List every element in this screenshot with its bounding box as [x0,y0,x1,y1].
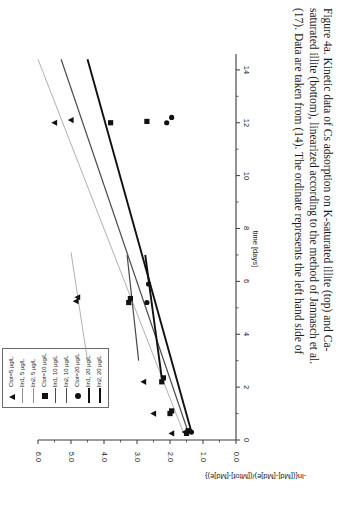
x-tick-label: 12 [242,119,251,127]
caption-line: (17). Data are taken from (14). The ordi… [291,8,306,522]
legend-item-label: Ctot=5 µg/L [6,357,17,387]
x-tick-label: 14 [242,66,251,74]
y-tick-label: 5.0 [67,446,76,468]
data-point-triangle [140,379,146,385]
caption-line: saturated illite (bottom), linearized ac… [306,8,321,522]
x-tick-label: 2 [242,385,251,389]
y-tick-label: 0.0 [232,446,241,468]
legend-item-label: lin1, 5 µg/L [17,359,28,387]
x-tick-label: 8 [242,226,251,230]
data-point-triangle [68,117,74,123]
y-tick-label: 4.0 [100,446,109,468]
y-tick-label: 2.0 [166,446,175,468]
fit-line [71,252,88,360]
data-point-circle [146,281,151,286]
y-tick-label: 1.0 [199,446,208,468]
data-point-circle [144,300,149,305]
data-point-triangle [73,298,79,304]
data-point-square [108,120,113,125]
rotated-figure-stage: Ctot=5 µg/Llin1, 5 µg/Llin2, 5 µg/LCtot=… [0,0,349,528]
legend-key-triangle-icon [9,394,15,400]
x-tick-label: 0 [242,438,251,442]
plot-svg [30,48,262,468]
x-tick-label: 4 [242,332,251,336]
legend-key-slot [17,387,28,404]
data-point-circle [164,120,169,125]
legend-key-line-thin-icon [22,388,23,403]
data-point-square [161,375,166,380]
data-point-triangle [51,120,57,126]
legend-item: Ctot=5 µg/L [6,354,17,404]
legend-item: lin1, 5 µg/L [17,354,28,404]
data-point-square [169,408,174,413]
caption-line: Figure 4a. Kinetic data of Cs adsorption… [320,8,335,522]
x-axis-title: time [days] [251,231,260,267]
y-tick-label: 3.0 [133,446,142,468]
data-point-triangle [168,430,174,436]
fit-line [88,59,192,432]
x-tick-label: 10 [242,171,251,179]
figure-plot-area: Ctot=5 µg/Llin1, 5 µg/Llin2, 5 µg/LCtot=… [0,0,287,528]
data-point-square [144,119,149,124]
data-point-circle [189,429,194,434]
data-point-square [128,296,133,301]
data-point-triangle [150,410,156,416]
y-tick-label: 6.0 [34,446,43,468]
legend-key-slot [6,387,17,404]
x-tick-label: 6 [242,279,251,283]
plot-canvas: 024681012140.01.02.03.04.05.06.0 time [d… [30,48,262,468]
data-point-circle [169,115,174,120]
fit-line [61,59,188,432]
figure-caption: (17). Data are taken from (14). The ordi… [287,0,349,528]
